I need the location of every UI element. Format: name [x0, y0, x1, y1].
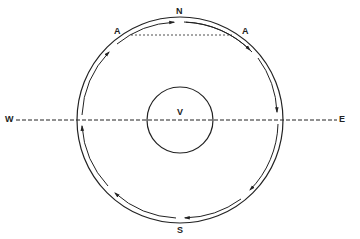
label-south: S: [177, 226, 183, 235]
label-a-left: A: [114, 27, 121, 36]
label-west: W: [5, 115, 14, 124]
label-a-right: A: [242, 27, 249, 36]
label-center-v: V: [177, 108, 183, 117]
orbit-diagram: [0, 0, 360, 239]
label-east: E: [339, 115, 345, 124]
label-north: N: [176, 7, 183, 16]
